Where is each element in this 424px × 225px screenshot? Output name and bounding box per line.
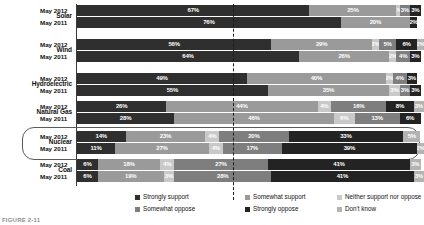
segment-value-label: 40% — [311, 73, 322, 84]
legend-item-somewhat-oppose: Somewhat oppose — [135, 205, 195, 213]
bar-row: May 201111%27%4%17%39%2% — [0, 143, 424, 154]
segment-value-label: 76% — [203, 17, 214, 28]
bar-segment: 8% — [386, 101, 413, 112]
stacked-bar: 28%46%6%13%6% — [77, 113, 424, 124]
segment-value-label: 29% — [316, 39, 327, 50]
bar-segment: 18% — [98, 159, 160, 170]
segment-value-label: 49% — [156, 73, 167, 84]
bar-segment: 2% — [417, 39, 424, 50]
bar-segment: 6% — [334, 113, 355, 124]
series-row-label: May 2011 — [40, 85, 74, 96]
bar-segment: 29% — [271, 39, 372, 50]
segment-value-label: 8% — [396, 101, 404, 112]
bar-segment: 76% — [77, 17, 341, 28]
bar-segment: 28% — [77, 113, 174, 124]
segment-value-label: 27% — [215, 159, 226, 170]
segment-value-label: 3% — [415, 171, 423, 182]
legend-label: Neither support nor oppose — [345, 193, 421, 201]
series-row-label: May 2012 — [40, 39, 74, 50]
segment-value-label: 19% — [125, 171, 136, 182]
legend-swatch-icon — [337, 207, 342, 212]
series-row-label: May 2011 — [40, 17, 74, 28]
bar-segment: 4% — [393, 73, 407, 84]
bar-segment: 23% — [126, 131, 206, 142]
bar-segment: 17% — [223, 143, 282, 154]
segment-value-label: 3% — [411, 85, 419, 96]
segment-value-label: 28% — [120, 113, 131, 124]
stacked-bar: 6%18%4%27%41%3% — [77, 159, 424, 170]
segment-value-label: 41% — [337, 171, 348, 182]
bar-row: May 201128%46%6%13%6% — [0, 113, 424, 124]
series-row-label: May 2012 — [40, 131, 74, 142]
segment-value-label: 41% — [333, 159, 344, 170]
segment-value-label: 2% — [410, 17, 417, 28]
bar-segment: 4% — [318, 101, 332, 112]
legend-label: Strongly support — [143, 193, 189, 201]
legend-label: Don't know — [345, 205, 376, 213]
bar-segment: 19% — [98, 171, 164, 182]
stacked-bar: 64%26%2%4%3% — [77, 51, 424, 62]
segment-value-label: 3% — [390, 85, 398, 96]
bar-segment: 16% — [331, 101, 386, 112]
bar-row: May 201214%23%4%20%33%5% — [0, 131, 424, 142]
bar-segment: 3% — [410, 51, 420, 62]
bar-row: May 201256%29%2%5%6%2% — [0, 39, 424, 50]
series-row-label: May 2012 — [40, 159, 74, 170]
chart-legend: Strongly support Somewhat oppose Somewha… — [0, 190, 424, 218]
bar-row: May 201164%26%2%4%3% — [0, 51, 424, 62]
stacked-bar: 6%19%3%28%41%3% — [77, 171, 424, 182]
segment-value-label: 4% — [396, 73, 404, 84]
bar-segment: 4% — [396, 51, 410, 62]
bar-segment: 28% — [174, 171, 271, 182]
stacked-bar: 11%27%4%17%39%2% — [77, 143, 424, 154]
bar-segment: 2% — [372, 39, 379, 50]
stacked-bar: 49%40%2%4%3% — [77, 73, 424, 84]
bar-segment: 35% — [268, 85, 389, 96]
segment-value-label: 2% — [417, 39, 424, 50]
segment-value-label: 27% — [156, 143, 167, 154]
stacked-bar: 76%20%2% — [77, 17, 424, 28]
bar-segment: 3% — [414, 101, 424, 112]
bar-segment: 13% — [355, 113, 400, 124]
bar-segment: 27% — [174, 159, 268, 170]
category-group-wind: WindMay 201256%29%2%5%6%2%May 201164%26%… — [0, 39, 424, 63]
bar-segment: 44% — [166, 101, 317, 112]
stacked-bar: 55%35%3%3%3% — [77, 85, 424, 96]
bar-segment: 40% — [247, 73, 386, 84]
category-group-nuclear: NuclearMay 201214%23%4%20%33%5%May 20111… — [0, 131, 424, 155]
bar-segment: 2% — [389, 51, 396, 62]
category-group-natural-gas: Natural GasMay 201226%44%4%16%8%3%May 20… — [0, 101, 424, 125]
category-group-hydroelectric: HydroelectricMay 201249%40%2%4%3%May 201… — [0, 73, 424, 97]
bar-segment: 20% — [341, 17, 410, 28]
series-row-label: May 2011 — [40, 113, 74, 124]
bar-row: May 20126%18%4%27%41%3% — [0, 159, 424, 170]
bar-segment: 55% — [77, 85, 268, 96]
bar-segment: 3% — [164, 171, 174, 182]
category-group-coal: CoalMay 20126%18%4%27%41%3%May 20116%19%… — [0, 159, 424, 183]
bar-segment: 6% — [77, 171, 98, 182]
segment-value-label: 20% — [370, 17, 381, 28]
segment-value-label: 18% — [123, 159, 134, 170]
stacked-bar: 26%44%4%16%8%3% — [77, 101, 424, 112]
segment-value-label: 13% — [371, 113, 382, 124]
bar-row: May 201155%35%3%3%3% — [0, 85, 424, 96]
segment-value-label: 3% — [415, 101, 423, 112]
bar-segment: 2% — [410, 17, 417, 28]
bar-segment: 41% — [271, 171, 413, 182]
bar-segment: 3% — [410, 5, 420, 16]
bar-segment: 2% — [417, 143, 424, 154]
segment-value-label: 4% — [208, 131, 216, 142]
bar-segment: 5% — [403, 131, 420, 142]
series-row-label: May 2011 — [40, 171, 74, 182]
segment-value-label: 3% — [408, 73, 416, 84]
bar-segment: 3% — [407, 73, 417, 84]
series-row-label: May 2011 — [40, 51, 74, 62]
segment-value-label: 4% — [320, 101, 328, 112]
segment-value-label: 55% — [167, 85, 178, 96]
bar-segment: 26% — [77, 101, 166, 112]
bar-segment: 3% — [410, 159, 420, 170]
legend-label: Somewhat oppose — [143, 205, 195, 213]
bar-row: May 201267%25%1%3%3% — [0, 5, 424, 16]
segment-value-label: 23% — [160, 131, 171, 142]
bar-row: May 201226%44%4%16%8%3% — [0, 101, 424, 112]
